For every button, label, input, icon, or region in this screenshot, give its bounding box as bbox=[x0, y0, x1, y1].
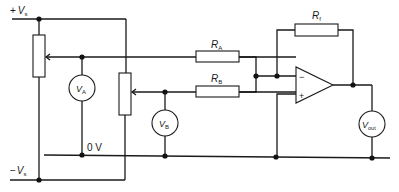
ground-label: 0 V bbox=[87, 142, 102, 153]
potentiometer-a bbox=[33, 35, 45, 180]
voltmeter-a: VA bbox=[69, 75, 95, 101]
svg-text:RA: RA bbox=[211, 39, 222, 51]
svg-text:RB: RB bbox=[211, 73, 222, 85]
potentiometer-b bbox=[119, 73, 131, 180]
resistor-rb: RB bbox=[196, 73, 256, 97]
svg-text:Rf: Rf bbox=[312, 10, 321, 22]
positive-supply-label: +Vs bbox=[10, 5, 28, 17]
svg-text:−: − bbox=[299, 72, 304, 82]
negative-supply-rail bbox=[10, 177, 125, 182]
voltmeter-b: VB bbox=[152, 110, 178, 136]
resistor-rf: Rf bbox=[277, 10, 353, 85]
op-amp: − + bbox=[277, 67, 372, 157]
svg-text:+: + bbox=[299, 91, 304, 101]
voltmeter-out: Vout bbox=[359, 85, 385, 158]
summing-junction bbox=[253, 73, 296, 78]
resistor-ra: RA bbox=[196, 39, 256, 76]
negative-supply-label: −Vs bbox=[10, 165, 27, 177]
wiper-a-wire bbox=[46, 54, 296, 155]
positive-supply-rail bbox=[12, 16, 126, 73]
circuit-diagram: +Vs VA VB −Vs bbox=[0, 0, 399, 192]
ground-rail bbox=[44, 152, 390, 160]
